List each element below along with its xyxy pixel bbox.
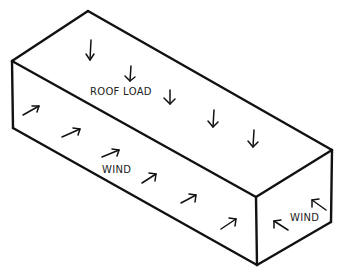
wind-side-label: WIND xyxy=(102,164,131,175)
front-corner-edge xyxy=(256,197,257,265)
roof-load-label: ROOF LOAD xyxy=(90,86,152,97)
wind-arrow-icon xyxy=(274,220,288,230)
roof-back-left-edge xyxy=(12,11,88,61)
bottom-front-edge xyxy=(13,128,257,265)
wind-arrow-icon xyxy=(142,173,156,183)
building-box-diagram: ROOF LOAD WIND WIND xyxy=(0,0,342,276)
wind-arrow-icon xyxy=(221,218,236,229)
down-arrow-icon xyxy=(125,66,135,81)
wind-arrow-icon xyxy=(62,128,80,137)
wind-arrow-icon xyxy=(102,149,119,157)
wind-end-label: WIND xyxy=(290,212,319,223)
down-arrow-icon xyxy=(208,110,218,127)
left-vertical-edge xyxy=(12,61,13,128)
roof-back-right-edge xyxy=(88,11,332,150)
roof-front-edge xyxy=(12,61,256,197)
down-arrow-icon xyxy=(86,40,94,60)
end-right-vertical-edge xyxy=(331,150,332,222)
roof-right-edge xyxy=(256,150,332,197)
end-bottom-edge xyxy=(257,222,331,265)
down-arrow-icon xyxy=(164,90,175,104)
wind-arrow-icon xyxy=(181,194,196,203)
wind-arrow-icon xyxy=(23,106,39,115)
wind-arrow-icon xyxy=(312,199,326,210)
down-arrow-icon xyxy=(248,130,258,147)
